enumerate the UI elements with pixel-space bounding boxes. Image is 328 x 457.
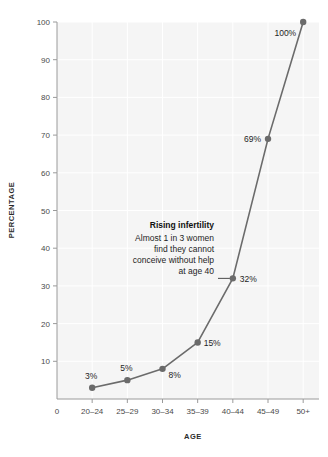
data-point-label: 8% xyxy=(169,370,182,380)
x-axis-ticks xyxy=(92,399,303,403)
data-point-marker xyxy=(300,19,306,25)
y-axis-tick-label: 90 xyxy=(41,56,50,65)
x-axis-tick-label: 50+ xyxy=(296,407,310,416)
x-axis-tick-label: 35–39 xyxy=(187,407,210,416)
x-axis-tick-label: 0 xyxy=(55,407,60,416)
data-point-label: 69% xyxy=(244,134,261,144)
data-point-label: 5% xyxy=(120,363,133,373)
infertility-by-age-chart: 102030405060708090100 020–2425–2930–3435… xyxy=(0,0,328,457)
y-axis-ticks xyxy=(53,22,57,361)
y-axis-tick-label: 20 xyxy=(41,320,50,329)
y-axis-tick-label: 70 xyxy=(41,131,50,140)
data-point-label: 32% xyxy=(240,274,257,284)
y-axis-tick-labels: 102030405060708090100 xyxy=(37,18,51,366)
x-axis-title: AGE xyxy=(184,432,202,441)
y-axis-tick-label: 100 xyxy=(37,18,51,27)
x-axis-tick-label: 25–29 xyxy=(116,407,139,416)
annotation-line-1: Almost 1 in 3 women xyxy=(135,233,214,243)
annotation-line-3: conceive without help xyxy=(133,255,215,265)
data-point-marker xyxy=(89,384,95,390)
x-axis-tick-label: 40–44 xyxy=(222,407,245,416)
y-axis-title: PERCENTAGE xyxy=(7,182,16,239)
annotation-line-2: find they cannot xyxy=(154,244,215,254)
data-point-label: 15% xyxy=(204,338,221,348)
data-point-label: 3% xyxy=(85,371,98,381)
y-axis-tick-label: 10 xyxy=(41,357,50,366)
annotation-line-4: at age 40 xyxy=(179,266,215,276)
data-point-marker xyxy=(124,377,130,383)
x-axis-tick-label: 30–34 xyxy=(151,407,174,416)
data-point-marker xyxy=(159,366,165,372)
data-point-marker xyxy=(194,339,200,345)
y-axis-tick-label: 30 xyxy=(41,282,50,291)
x-axis-tick-label: 45–49 xyxy=(257,407,280,416)
y-axis-tick-label: 80 xyxy=(41,93,50,102)
y-axis-tick-label: 40 xyxy=(41,244,50,253)
x-axis-tick-label: 20–24 xyxy=(81,407,104,416)
annotation-heading: Rising infertility xyxy=(150,220,215,230)
data-point-label: 100% xyxy=(274,28,296,38)
y-axis-tick-label: 60 xyxy=(41,169,50,178)
data-point-marker xyxy=(230,275,236,281)
chart-canvas: 102030405060708090100 020–2425–2930–3435… xyxy=(0,0,328,457)
y-axis-tick-label: 50 xyxy=(41,207,50,216)
data-point-marker xyxy=(265,136,271,142)
x-axis-tick-labels: 020–2425–2930–3435–3940–4445–4950+ xyxy=(55,407,311,416)
